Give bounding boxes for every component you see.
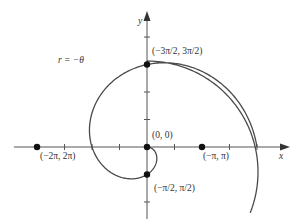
point-label-top: (−3π/2, 3π/2) — [152, 47, 202, 57]
point-marker — [144, 144, 150, 150]
point-marker — [144, 61, 150, 67]
point-marker — [144, 171, 150, 177]
point-label-bottom: (−π/2, π/2) — [154, 184, 195, 194]
point-label-left: (−2π, 2π) — [40, 152, 76, 162]
point-label-right: (−π, π) — [203, 152, 229, 162]
x-axis-arrow-icon — [280, 144, 290, 151]
point-marker — [199, 144, 205, 150]
point-marker — [34, 144, 40, 150]
point-label-origin: (0, 0) — [152, 131, 173, 141]
polar-plot — [0, 0, 296, 222]
axes — [14, 18, 282, 219]
x-axis-label: x — [279, 152, 283, 162]
y-axis-arrow-icon — [144, 11, 151, 21]
y-axis-label: y — [138, 17, 142, 27]
curve-label: r = −θ — [58, 56, 84, 66]
